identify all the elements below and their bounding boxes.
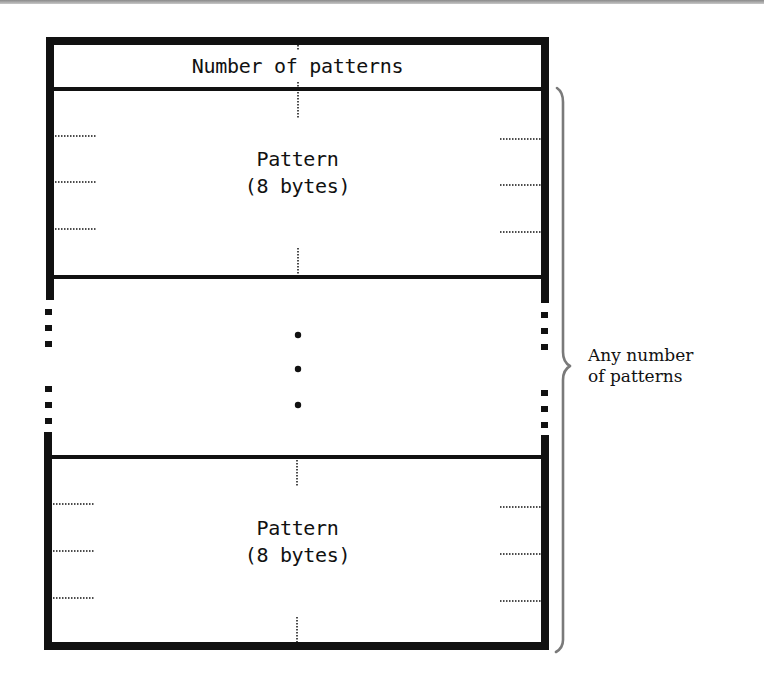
brace-annotation-line-1: Any number [588,345,693,366]
outer-border-right-upper [541,37,549,303]
pattern-record-1-size: (8 bytes) [54,173,541,200]
pattern-record-2-label: Pattern (8 bytes) [54,515,541,569]
pattern-record-1-label: Pattern (8 bytes) [54,146,541,200]
left-border-break-marks [45,309,52,424]
header-field-label: Number of patterns [54,52,541,80]
vertical-ellipsis-icon [295,332,301,408]
brace-annotation: Any number of patterns [588,345,693,387]
outer-border-bottom [44,642,549,650]
right-border-break-marks [541,312,548,428]
pattern-2-top-divider [52,455,541,459]
pattern-record-1-title: Pattern [54,146,541,173]
outer-border-right-lower [541,435,549,650]
pattern-1-bottom-divider [54,275,541,279]
outer-border-left-lower [44,432,52,650]
outer-border-left-upper [46,37,54,300]
pattern-record-2-title: Pattern [54,515,541,542]
brace-annotation-line-2: of patterns [588,366,693,387]
outer-border-top [46,37,549,45]
pattern-record-2-size: (8 bytes) [54,542,541,569]
curly-brace-icon [556,88,570,652]
header-divider [54,87,541,91]
